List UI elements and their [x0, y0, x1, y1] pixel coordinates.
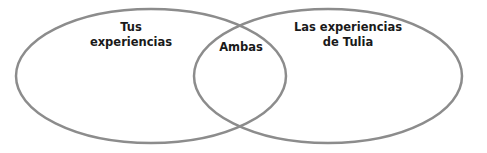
venn-diagram — [0, 0, 487, 153]
intersection-label: Ambas — [219, 40, 263, 55]
left-set-label: Tus experiencias — [90, 20, 172, 50]
left-set-label-line-1: Tus — [90, 20, 172, 35]
right-set-label: Las experiencias de Tulia — [294, 20, 402, 50]
right-set-label-line-1: Las experiencias — [294, 20, 402, 35]
left-set-label-line-2: experiencias — [90, 35, 172, 50]
right-set-label-line-2: de Tulia — [294, 35, 402, 50]
